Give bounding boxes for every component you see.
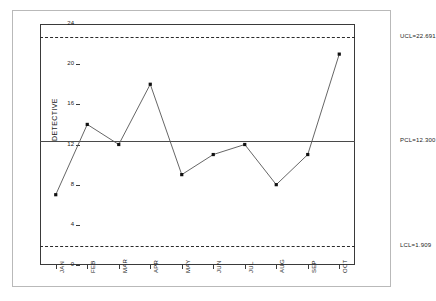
data-point-jan xyxy=(54,193,57,196)
x-tick-mark xyxy=(119,265,120,269)
pcl-label: PCL=12.300 xyxy=(400,137,436,143)
data-point-feb xyxy=(86,123,89,126)
x-tick-mark xyxy=(276,265,277,269)
data-point-mar xyxy=(117,143,120,146)
ucl-label: UCL=22.691 xyxy=(400,33,436,39)
x-tick-mark xyxy=(56,265,57,269)
series-path xyxy=(56,54,340,195)
data-point-apr xyxy=(149,83,152,86)
x-tick-mark xyxy=(339,265,340,269)
data-point-sep xyxy=(306,153,309,156)
data-point-oct xyxy=(338,53,341,56)
x-tick-mark xyxy=(87,265,88,269)
data-point-may xyxy=(180,173,183,176)
x-tick-mark xyxy=(308,265,309,269)
x-tick-mark xyxy=(245,265,246,269)
data-point-jul xyxy=(243,143,246,146)
data-series-line xyxy=(40,24,355,265)
y-tick-mark xyxy=(76,265,80,266)
data-point-jun xyxy=(212,153,215,156)
plot-area: DETECTIVE 04812162024 JANFEBMARAPRMAYJUN… xyxy=(40,24,355,265)
lcl-label: LCL=1.909 xyxy=(400,242,431,248)
data-point-aug xyxy=(275,183,278,186)
x-tick-mark xyxy=(150,265,151,269)
x-tick-mark xyxy=(213,265,214,269)
x-tick-mark xyxy=(182,265,183,269)
